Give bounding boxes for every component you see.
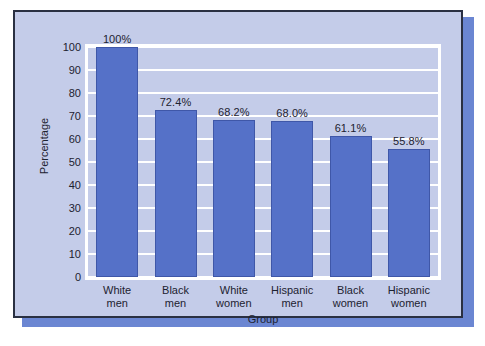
y-axis-tick-label: 70 — [51, 111, 81, 122]
x-axis-category-label: Blackwomen — [318, 284, 384, 310]
x-axis-category-label-line: women — [318, 297, 384, 310]
bar-value-label: 61.1% — [335, 122, 367, 134]
y-axis-tick-label: 80 — [51, 88, 81, 99]
x-axis-category-label: Whitemen — [84, 284, 150, 310]
bar[interactable] — [330, 136, 372, 277]
x-axis-category-label: Hispanicwomen — [376, 284, 442, 310]
bar[interactable] — [213, 120, 255, 277]
x-axis-category-label-line: White — [201, 284, 267, 297]
y-axis-tick-label: 30 — [51, 203, 81, 214]
y-axis-tick-label: 20 — [51, 226, 81, 237]
bar-value-label: 68.0% — [276, 107, 308, 119]
chart-card: Percentage 0102030405060708090100 100%72… — [13, 10, 463, 318]
bar-chart-figure: Percentage 0102030405060708090100 100%72… — [0, 0, 485, 346]
y-axis-tick-label: 50 — [51, 157, 81, 168]
bar-value-label: 68.2% — [218, 106, 250, 118]
x-axis-category-label: Blackmen — [143, 284, 209, 310]
x-axis-category-label-line: men — [84, 297, 150, 310]
bar[interactable] — [271, 121, 313, 277]
y-axis-tick-label: 0 — [51, 272, 81, 283]
x-axis-category-label-line: men — [259, 297, 325, 310]
x-axis-category-label: Hispanicmen — [259, 284, 325, 310]
x-axis-title: Group — [85, 313, 441, 325]
bar-group[interactable]: 68.2% — [213, 47, 255, 277]
x-axis-category-label-line: Black — [143, 284, 209, 297]
bar-group[interactable]: 55.8% — [388, 47, 430, 277]
bar-group[interactable]: 61.1% — [330, 47, 372, 277]
bar[interactable] — [388, 149, 430, 277]
x-axis-category-label-line: women — [376, 297, 442, 310]
y-axis-tick-label: 100 — [51, 42, 81, 53]
bar-group[interactable]: 100% — [96, 47, 138, 277]
x-axis-category-label-line: Hispanic — [376, 284, 442, 297]
x-axis-category-labels: WhitemenBlackmenWhitewomenHispanicmenBla… — [85, 284, 441, 316]
y-axis-tick-label: 40 — [51, 180, 81, 191]
x-axis-category-label-line: men — [143, 297, 209, 310]
y-axis-tick-labels: 0102030405060708090100 — [49, 44, 81, 280]
bar-value-label: 72.4% — [160, 96, 192, 108]
y-axis-tick-label: 10 — [51, 249, 81, 260]
bar[interactable] — [96, 47, 138, 277]
x-axis-category-label-line: Black — [318, 284, 384, 297]
y-axis-tick-label: 90 — [51, 65, 81, 76]
bar-group[interactable]: 68.0% — [271, 47, 313, 277]
x-axis-category-label-line: women — [201, 297, 267, 310]
x-axis-category-label: Whitewomen — [201, 284, 267, 310]
bars-layer: 100%72.4%68.2%68.0%61.1%55.8% — [85, 44, 441, 280]
x-axis-category-label-line: Hispanic — [259, 284, 325, 297]
bar-value-label: 100% — [103, 33, 132, 45]
y-axis-tick-label: 60 — [51, 134, 81, 145]
bar-group[interactable]: 72.4% — [155, 47, 197, 277]
bar-value-label: 55.8% — [393, 135, 425, 147]
x-axis-category-label-line: White — [84, 284, 150, 297]
bar[interactable] — [155, 110, 197, 277]
